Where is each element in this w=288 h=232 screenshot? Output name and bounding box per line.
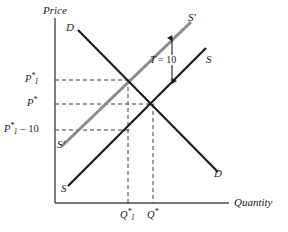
price-tick-minus10-suffix: – 10 xyxy=(18,123,39,134)
supply-shifted-curve-label-top: S′ xyxy=(188,12,196,23)
quantity-tick-q-base: Q xyxy=(147,209,155,220)
demand-curve-label-bottom: D xyxy=(214,168,222,179)
supply-curve-label-top: S xyxy=(206,54,212,65)
quantity-tick-q1-sub: 1 xyxy=(131,213,135,222)
demand-curve xyxy=(78,30,218,172)
tax-value: 10 xyxy=(166,54,176,65)
supply-curve xyxy=(68,48,206,186)
price-tick-p1-star-base: P xyxy=(25,73,31,84)
quantity-tick-q-star: * xyxy=(155,207,159,216)
quantity-tick-q1-star: Q*1 xyxy=(120,208,135,221)
tax-equals: = xyxy=(156,54,167,65)
axes-group xyxy=(55,18,229,203)
supply-curve-label-bottom: S xyxy=(61,183,67,194)
price-tick-p1-star: P*1 xyxy=(25,72,39,85)
quantity-tick-q1-base: Q xyxy=(120,209,128,220)
price-tick-p1-star-sub: 1 xyxy=(35,77,39,86)
quantity-tick-q-star: Q* xyxy=(147,208,159,220)
price-tick-minus10-base: P xyxy=(4,123,10,134)
price-tick-p-star-base: P xyxy=(27,97,33,108)
y-axis-title: Price xyxy=(43,5,67,16)
price-tick-p-star: P* xyxy=(27,96,38,108)
price-tick-p-star-star: * xyxy=(34,95,38,104)
tax-wedge-label: T = 10 xyxy=(150,55,176,65)
demand-curve-label-top: D xyxy=(66,22,74,33)
x-axis-title: Quantity xyxy=(234,197,273,208)
price-tick-p1-star-minus-10: P*1 – 10 xyxy=(4,122,39,135)
supply-demand-tax-figure: Price Quantity P*1 P* P*1 – 10 Q*1 Q* D … xyxy=(0,0,288,232)
supply-shifted-curve-label-bottom: S′ xyxy=(57,139,65,150)
